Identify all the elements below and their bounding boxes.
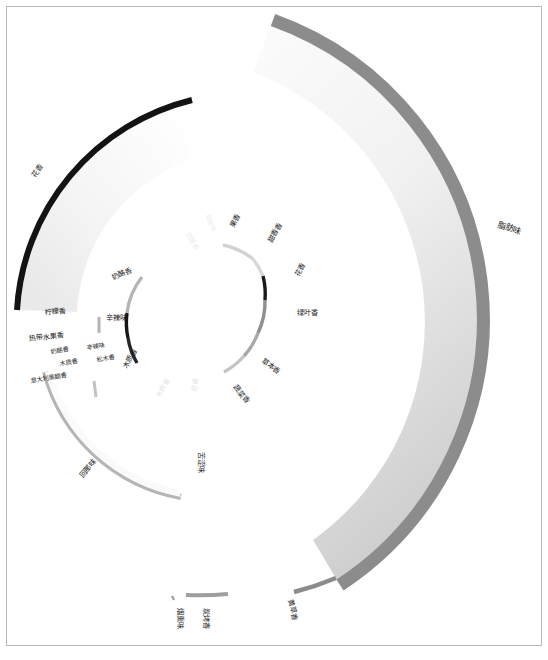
label-bitter: 苦涩味: [197, 452, 206, 473]
floral-wedge-fill: [17, 100, 192, 312]
label-sweet: 甜香香: [266, 221, 284, 244]
watermark-label-1: 辛辣味: [203, 212, 219, 233]
inner-arc-greenleaf[interactable]: [258, 300, 265, 333]
label-dry-grass: 黄草香: [286, 598, 300, 621]
bottom-bars: [172, 578, 336, 600]
outer-ring-segment-fat[interactable]: [253, 20, 483, 585]
flavor-wheel-chart: 辛辣味 奶酪香 木质香 花香 脂肪味 花香 回那味 苦涩味 果香 甜香香 花香 …: [0, 0, 548, 660]
label-woody-leaf: 木质香: [59, 357, 78, 368]
watermark-label-3: 木质香: [154, 376, 172, 399]
label-middle-floral: 花香: [29, 163, 45, 180]
inner-arc-sweet[interactable]: [253, 259, 263, 276]
middle-ring-segment-floral[interactable]: [17, 100, 192, 312]
bar-roasted[interactable]: [186, 594, 228, 595]
watermark-label-2: 奶酪香: [184, 231, 201, 252]
inner-ring: [126, 245, 265, 372]
label-spicy: 辛辣味: [106, 313, 127, 322]
leaf-tick-italian: [94, 381, 96, 397]
outer-wedge-fill: [253, 20, 483, 585]
label-vegetal: 蔬菜香: [231, 383, 251, 405]
watermark-label-4: 花香: [189, 377, 201, 393]
inner-arc-floral[interactable]: [263, 276, 265, 300]
label-fruity: 果香: [228, 212, 243, 229]
label-cheesy-leaf: 奶酪香: [50, 345, 69, 356]
label-green-leaf: 绿叶香: [297, 308, 318, 317]
inner-arc-fruity[interactable]: [223, 245, 253, 259]
label-aftertaste: 回那味: [78, 457, 98, 479]
label-herbal: 草本香: [260, 356, 282, 376]
inner-arc-vegetal[interactable]: [224, 356, 244, 372]
label-pine: 松木香: [96, 353, 115, 364]
bar-dry-grass[interactable]: [294, 578, 336, 592]
label-fat-flavor: 脂肪味: [496, 219, 523, 236]
label-lemon: 柠檬香: [44, 306, 66, 317]
label-smoky: 烟熏味: [176, 608, 185, 629]
radial-sunburst-svg: 辛辣味 奶酪香 木质香 花香 脂肪味 花香 回那味 苦涩味 果香 甜香香 花香 …: [0, 0, 548, 660]
bar-smoky[interactable]: [172, 596, 174, 600]
label-floral-inner: 花香: [293, 261, 308, 278]
inner-arc-herbal[interactable]: [244, 333, 258, 356]
label-tropical-fruit: 热带水果香: [28, 330, 64, 343]
label-spicy-leaf: 辛辣味: [86, 341, 105, 352]
label-cheesy: 奶酪香: [110, 266, 133, 282]
watermark-labels: 辛辣味 奶酪香 木质香 花香: [154, 212, 219, 399]
inner-arc-cheesy[interactable]: [127, 277, 142, 313]
label-roasted: 炭烤香: [202, 608, 211, 629]
